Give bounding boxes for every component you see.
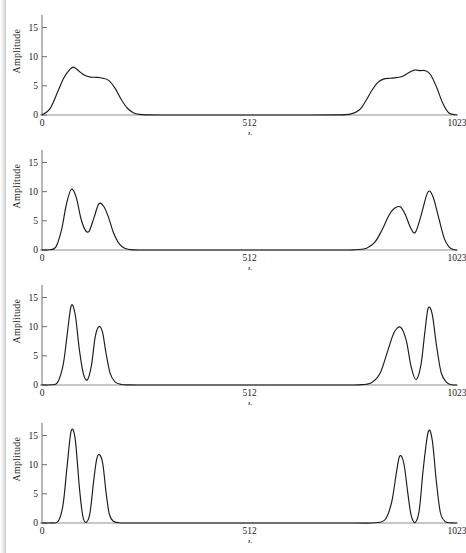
y-tick-label: 15 (29, 23, 39, 33)
x-tick-label: 1023 (448, 253, 466, 263)
y-axis-label-2: Amplitude (11, 193, 22, 209)
y-tick-label: 5 (33, 489, 38, 499)
data-curve (42, 305, 457, 385)
y-tick-label: 15 (29, 293, 39, 303)
x-tick-label: 512 (243, 526, 258, 536)
x-tick-label: 512 (243, 388, 258, 398)
chart-svg-4: 05101505121023k (0, 408, 466, 543)
y-tick-label: 15 (29, 158, 39, 168)
y-tick-label: 10 (29, 460, 39, 470)
plot-panel-1: 05101505121023k Amplitude (0, 0, 466, 135)
x-tick-label: 0 (40, 118, 45, 128)
y-tick-label: 15 (29, 431, 39, 441)
x-axis-title: k (247, 400, 252, 405)
chart-svg-3: 05101505121023k (0, 270, 466, 405)
plot-panel-2: 05101505121023k Amplitude (0, 135, 466, 270)
y-tick-label: 10 (29, 322, 39, 332)
y-tick-label: 0 (33, 518, 38, 528)
y-axis-label-4: Amplitude (11, 466, 22, 482)
data-curve (42, 67, 457, 115)
x-tick-label: 1023 (448, 526, 466, 536)
x-axis-title: k (247, 538, 252, 543)
data-curve (42, 189, 457, 250)
y-tick-label: 0 (33, 110, 38, 120)
y-tick-label: 5 (33, 81, 38, 91)
y-tick-label: 0 (33, 245, 38, 255)
y-tick-label: 5 (33, 351, 38, 361)
y-axis-label-3: Amplitude (11, 328, 22, 344)
x-tick-label: 1023 (448, 118, 466, 128)
chart-svg-2: 05101505121023k (0, 135, 466, 270)
plot-panel-4: 05101505121023k Amplitude (0, 408, 466, 543)
y-tick-label: 5 (33, 216, 38, 226)
y-tick-label: 10 (29, 187, 39, 197)
x-tick-label: 0 (40, 388, 45, 398)
plot-panel-3: 05101505121023k Amplitude (0, 270, 466, 405)
x-tick-label: 1023 (448, 388, 466, 398)
chart-svg-1: 05101505121023k (0, 0, 466, 135)
x-tick-label: 0 (40, 526, 45, 536)
y-axis-label-1: Amplitude (11, 58, 22, 74)
x-tick-label: 512 (243, 253, 258, 263)
data-curve (42, 429, 457, 523)
x-tick-label: 512 (243, 118, 258, 128)
x-tick-label: 0 (40, 253, 45, 263)
y-tick-label: 10 (29, 52, 39, 62)
y-tick-label: 0 (33, 380, 38, 390)
